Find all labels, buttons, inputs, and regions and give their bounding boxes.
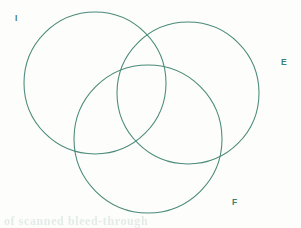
venn-diagram-svg xyxy=(0,0,301,228)
set-label-f: F xyxy=(232,198,237,207)
venn-diagram-canvas: I E F of scanned bleed-through xyxy=(0,0,301,228)
circle-f xyxy=(74,65,222,213)
set-label-e: E xyxy=(281,58,287,67)
circle-e xyxy=(117,22,259,164)
circle-i xyxy=(24,12,166,154)
set-label-i: I xyxy=(15,14,18,23)
